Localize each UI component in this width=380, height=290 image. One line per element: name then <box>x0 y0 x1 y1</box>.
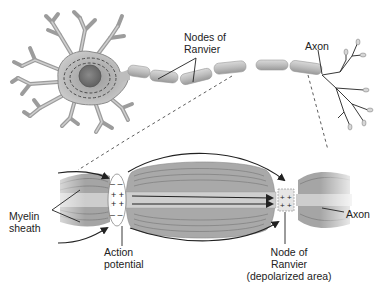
label-axon-top: Axon <box>305 40 329 52</box>
label-node-of-ranvier: Node of Ranvier (depolarized area) <box>244 246 334 282</box>
node-inside-charge-2: + + <box>280 200 292 212</box>
myelin-segments-top <box>127 60 322 86</box>
zoom-line-right <box>308 75 328 150</box>
myelin-sheath-left <box>40 170 112 232</box>
ap-outside-charge-bottom: – – <box>110 209 123 221</box>
label-action-potential: Action potential <box>104 246 144 270</box>
myelin-sheath-middle <box>126 162 276 238</box>
diagram-canvas: – – + + + + – – + + + + Nodes of Ranvier… <box>0 0 380 290</box>
label-myelin-sheath: Myelin sheath <box>9 210 41 234</box>
nucleus <box>79 65 101 87</box>
label-axon-bottom: Axon <box>346 208 370 220</box>
label-nodes-of-ranvier: Nodes of Ranvier <box>184 31 226 55</box>
enlarged-axon <box>40 153 360 246</box>
myelin-sheath-right <box>296 168 360 234</box>
